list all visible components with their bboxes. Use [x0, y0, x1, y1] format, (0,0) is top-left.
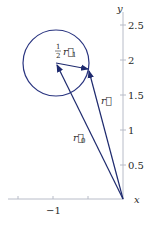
label-r: r⃗ [101, 95, 112, 106]
y-tick-label-0-5: 0.5 [128, 160, 144, 171]
label-half-r1: 1 2 r⃗ 1 [55, 43, 76, 60]
y-tick-label-2-5: 2.5 [128, 20, 144, 31]
vector-r0 [57, 65, 123, 199]
y-tick-label-2: 2 [128, 55, 134, 66]
vector-diagram: −1 x 2.5 2 1.5 1 0.5 y 1 2 r⃗ 1 r⃗ r⃗ 0 [0, 0, 152, 226]
r0-subscript: 0 [81, 137, 85, 145]
y-tick-label-1: 1 [128, 125, 134, 136]
r1-subscript: 1 [72, 51, 76, 59]
y-axis: 2.5 2 1.5 1 0.5 y [116, 3, 144, 199]
x-axis: −1 x [8, 194, 140, 216]
x-tick-label-m1: −1 [46, 205, 61, 216]
vector-half-r1 [56, 63, 88, 69]
half-numerator: 1 [56, 43, 60, 51]
half-denominator: 2 [56, 52, 60, 60]
y-tick-label-1-5: 1.5 [128, 90, 144, 101]
x-axis-label: x [134, 194, 140, 205]
y-axis-label: y [116, 3, 123, 14]
vector-r [89, 71, 123, 199]
label-r0: r⃗ 0 [73, 132, 85, 145]
